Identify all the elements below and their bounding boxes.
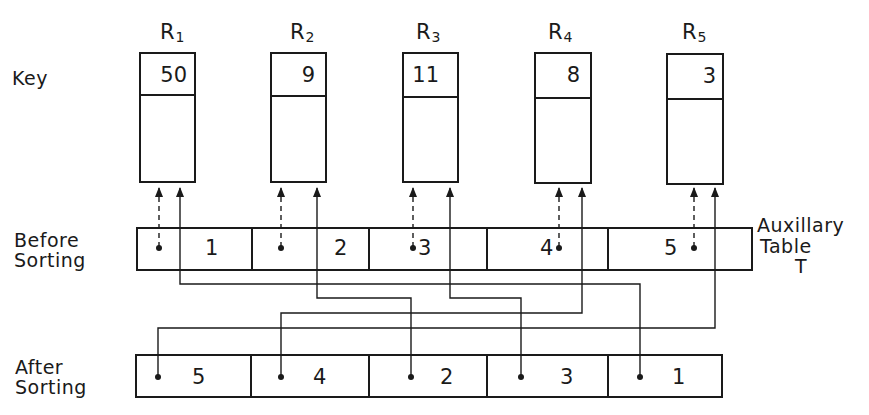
after-cell-5: 1	[672, 365, 685, 389]
key-label: Key	[12, 68, 48, 89]
after-cell-2: 4	[313, 365, 326, 389]
record-key-r1: 50	[140, 63, 187, 87]
pointer-r5	[158, 188, 715, 376]
record-title-r3: R3	[416, 20, 441, 44]
record-title-r2: R2	[290, 20, 315, 44]
pointer-r1	[180, 188, 640, 376]
before-cell-4: 4	[540, 236, 553, 260]
after-sorting-label-line2: Sorting	[15, 377, 87, 398]
record-title-r4: R4	[548, 20, 573, 44]
before-cell-3: 3	[418, 236, 431, 260]
record-key-r4: 8	[535, 63, 580, 87]
after-pointers	[158, 188, 715, 376]
before-sorting-table	[137, 228, 752, 270]
before-cell-5: 5	[664, 236, 677, 260]
after-cell-4: 3	[560, 365, 573, 389]
after-cell-1: 5	[192, 365, 205, 389]
pointer-r2	[317, 188, 411, 376]
aux-table-label-line3: T	[795, 256, 807, 277]
before-sorting-label-line1: Before	[14, 230, 79, 251]
before-cell-1: 1	[205, 236, 218, 260]
record-title-r1: R1	[160, 20, 185, 44]
pointer-r3	[450, 188, 521, 376]
after-sorting-table	[136, 355, 722, 397]
before-sorting-label-line2: Sorting	[14, 250, 86, 271]
aux-table-label-line2: Table	[760, 236, 812, 257]
before-cell-2: 2	[334, 236, 347, 260]
record-title-r5: R5	[682, 20, 707, 44]
pointer-r4	[281, 188, 582, 376]
after-cell-3: 2	[440, 365, 453, 389]
record-key-r3: 11	[403, 63, 439, 87]
after-sorting-label-line1: After	[15, 357, 63, 378]
record-key-r2: 9	[271, 63, 315, 87]
aux-table-label-line1: Auxillary	[757, 215, 844, 236]
record-key-r5: 3	[667, 64, 716, 88]
